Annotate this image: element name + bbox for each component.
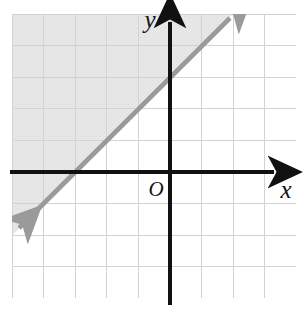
origin-label: O	[148, 177, 163, 201]
y-axis-label: y	[141, 6, 156, 33]
x-axis-label: x	[279, 176, 291, 203]
graph-canvas: y x O	[0, 0, 304, 315]
coordinate-plane-figure: y x O	[0, 0, 304, 315]
